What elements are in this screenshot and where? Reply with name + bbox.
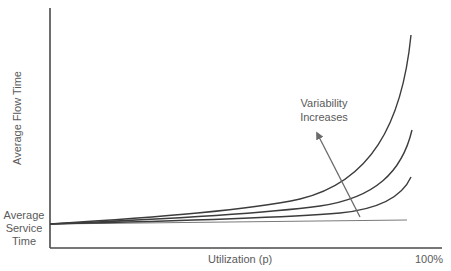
- x-axis-max-tick: 100%: [415, 253, 443, 265]
- curve-low-variability: [50, 177, 411, 224]
- x-axis-label: Utilization (p): [208, 253, 272, 265]
- variability-annotation: Variability Increases: [296, 96, 352, 124]
- service-time-line-1: Average: [2, 209, 46, 222]
- annotation-line-2: Increases: [296, 110, 352, 124]
- service-time-line-2: Service: [2, 222, 46, 235]
- annotation-line-1: Variability: [296, 96, 352, 110]
- flow-time-chart: [0, 0, 451, 271]
- service-time-label: Average Service Time: [2, 209, 46, 248]
- service-time-line-3: Time: [2, 235, 46, 248]
- y-axis-label: Average Flow Time: [11, 71, 23, 165]
